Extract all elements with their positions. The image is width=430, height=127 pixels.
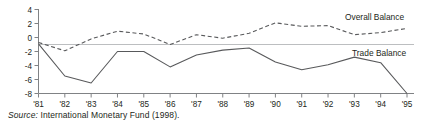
y-tick-label: 2	[27, 20, 32, 29]
line-chart: 420-2-4-6-8 '81'82'83'84'85'86'87'88'89'…	[0, 0, 430, 127]
x-tick-label: '91	[296, 100, 307, 109]
source-note-lead: Source:	[8, 110, 38, 120]
chart-figure: 420-2-4-6-8 '81'82'83'84'85'86'87'88'89'…	[0, 0, 430, 127]
y-tick-label: -2	[25, 48, 33, 57]
x-tick-label: '90	[270, 100, 281, 109]
series-label-trade-balance: Trade Balance	[352, 48, 407, 58]
x-tick-label: '94	[375, 100, 386, 109]
x-tick-label: '95	[402, 100, 413, 109]
series-label-overall-balance: Overall Balance	[345, 12, 404, 22]
x-tick-label: '88	[217, 100, 228, 109]
x-tick-label: '82	[59, 100, 70, 109]
x-tick-label: '85	[138, 100, 149, 109]
y-tick-label: -8	[25, 90, 33, 99]
source-note-text: International Monetary Fund (1998).	[38, 110, 180, 120]
x-tick-label: '86	[165, 100, 176, 109]
y-tick-label: 4	[27, 6, 32, 15]
y-tick-label: 0	[27, 34, 32, 43]
x-tick-label: '83	[86, 100, 97, 109]
x-tick-label: '92	[323, 100, 334, 109]
series-line-overall-balance	[39, 23, 408, 51]
x-axis-ticks: '81'82'83'84'85'86'87'88'89'90'91'92'93'…	[33, 94, 413, 110]
y-axis-ticks: 420-2-4-6-8	[25, 6, 39, 99]
x-tick-label: '87	[191, 100, 202, 109]
source-note: Source: International Monetary Fund (199…	[8, 110, 180, 120]
x-tick-label: '89	[244, 100, 255, 109]
y-tick-label: -4	[25, 62, 33, 71]
x-tick-label: '93	[349, 100, 360, 109]
y-tick-label: -6	[25, 76, 33, 85]
x-tick-label: '84	[112, 100, 123, 109]
x-tick-label: '81	[33, 100, 44, 109]
